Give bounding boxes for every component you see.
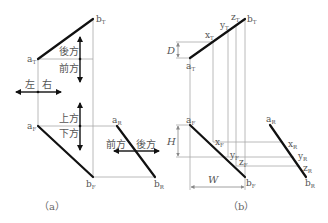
- label-b-a-R: aR: [266, 114, 276, 125]
- label-b-a-F: aF: [186, 115, 195, 126]
- label-b-b-F: bF: [246, 178, 256, 189]
- label-a-T: aT: [27, 54, 36, 65]
- label-b-T: bT: [96, 14, 106, 25]
- svg-text:W: W: [208, 174, 219, 185]
- label-front-top: 前方: [59, 62, 79, 74]
- orthographic-projection-diagram: aT bT aF bF aR bR 後方 前方 左 右 上方 下方 前方 後方 …: [0, 0, 328, 223]
- left-right-arrow: [16, 91, 61, 94]
- label-b-b-T: bT: [247, 14, 257, 25]
- label-b-y-R: yR: [297, 151, 308, 162]
- label-b-a-T: aT: [186, 61, 195, 72]
- label-left: 左: [25, 78, 35, 90]
- label-b-z-F: zF: [239, 157, 248, 168]
- panel-b-projection-lines: [176, 19, 300, 190]
- panel-b: D H W aT bT xT yT zT aF bF xF yF zF aR b…: [166, 12, 316, 212]
- label-b-b-R: bR: [305, 178, 316, 189]
- label-up: 上方: [59, 112, 79, 124]
- label-b-x-T: xT: [205, 30, 214, 41]
- svg-text:D: D: [166, 45, 175, 56]
- label-b-y-T: yT: [219, 20, 229, 31]
- label-down: 下方: [59, 127, 79, 139]
- panel-a: aT bT aF bF aR bR 後方 前方 左 右 上方 下方 前方 後方 …: [16, 14, 165, 212]
- label-b-x-F: xF: [215, 137, 224, 148]
- label-a-R: aR: [112, 115, 122, 126]
- label-b-z-T: zT: [231, 12, 240, 23]
- dimension-D: D: [166, 43, 178, 57]
- label-right: 右: [42, 78, 52, 90]
- label-b-x-R: xR: [288, 139, 298, 150]
- label-b-z-R: zR: [303, 163, 313, 174]
- dimension-H: H: [166, 126, 178, 156]
- label-b-y-F: yF: [229, 150, 239, 161]
- dimension-W: W: [191, 174, 244, 187]
- label-back-top: 後方: [59, 45, 79, 57]
- caption-b: （b）: [228, 201, 254, 212]
- label-front-side: 前方: [106, 138, 126, 150]
- label-a-F: aF: [27, 121, 36, 132]
- svg-text:H: H: [166, 136, 176, 147]
- label-b-F: bF: [86, 179, 96, 190]
- back-front-arrow: [79, 37, 82, 82]
- panel-b-front-view-line: [190, 125, 245, 177]
- label-b-R: bR: [154, 179, 165, 190]
- label-back-side: 後方: [136, 138, 156, 150]
- caption-a: （a）: [39, 201, 65, 212]
- up-down-arrow: [79, 103, 82, 150]
- panel-b-top-view-line: [190, 19, 245, 58]
